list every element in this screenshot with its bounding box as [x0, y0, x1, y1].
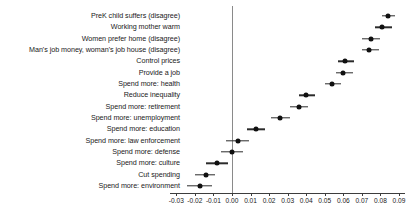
category-label: Spend more: law enforcement	[85, 137, 180, 145]
category-label: Reduce inequality	[124, 91, 180, 99]
x-axis-tick-label: 0.09	[393, 197, 406, 205]
category-label: PreK child suffers (disagree)	[91, 12, 180, 20]
category-label: Spend more: retirement	[106, 103, 180, 111]
estimate-point	[204, 172, 209, 177]
category-label: Spend more: unemployment	[91, 114, 180, 122]
category-label: Man's job money, woman's job house (disa…	[29, 46, 180, 54]
category-label: Spend more: defense	[112, 148, 180, 156]
x-axis-tick-label: 0.06	[337, 197, 350, 205]
estimate-point	[230, 149, 235, 154]
estimate-point	[235, 138, 240, 143]
estimate-point	[198, 183, 203, 188]
estimate-point	[215, 161, 220, 166]
category-label: Working mother warm	[111, 23, 180, 31]
x-axis-tick-label: 0.00	[226, 197, 239, 205]
estimate-point	[254, 127, 259, 132]
estimate-point	[369, 36, 374, 41]
estimate-point	[343, 59, 348, 64]
x-axis-tick-label: 0.05	[318, 197, 331, 205]
x-axis-tick-label: 0.02	[263, 197, 276, 205]
estimate-point	[330, 81, 335, 86]
x-axis-tick-label: 0.03	[281, 197, 294, 205]
category-label: Women prefer home (disagree)	[82, 35, 180, 43]
estimate-point	[341, 70, 346, 75]
x-axis-tick-label: 0.07	[355, 197, 368, 205]
category-label: Control prices	[136, 57, 180, 65]
estimate-point	[296, 104, 301, 109]
category-label-column: PreK child suffers (disagree)Working mot…	[0, 0, 184, 219]
category-label: Spend more: culture	[116, 159, 180, 167]
estimate-point	[304, 93, 309, 98]
category-label: Spend more: environment	[98, 182, 180, 190]
x-axis-tick-label: -0.03	[169, 197, 184, 205]
x-axis-tick-label: -0.02	[187, 197, 202, 205]
estimate-point	[380, 25, 385, 30]
plot-area: -0.03-0.02-0.010.000.010.020.030.040.050…	[184, 0, 420, 219]
estimate-point	[385, 14, 390, 19]
estimate-point	[278, 115, 283, 120]
x-axis-tick-label: 0.08	[374, 197, 387, 205]
category-label: Cut spending	[138, 171, 180, 179]
coefficient-plot-figure: PreK child suffers (disagree)Working mot…	[0, 0, 420, 219]
x-axis-tick-label: 0.01	[244, 197, 257, 205]
category-label: Spend more: education	[107, 125, 180, 133]
x-axis-tick-label: 0.04	[300, 197, 313, 205]
estimate-point	[367, 47, 372, 52]
category-label: Spend more: health	[118, 80, 180, 88]
x-axis-tick-label: -0.01	[206, 197, 221, 205]
zero-reference-line	[232, 6, 233, 193]
category-label: Provide a job	[139, 69, 180, 77]
